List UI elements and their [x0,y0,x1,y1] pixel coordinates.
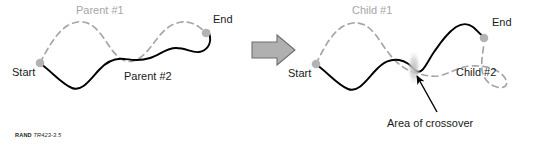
credit-org: RAND [15,132,32,138]
child-end-label: End [492,16,512,28]
child-start-dot [312,60,321,69]
crossover-figure: Start End Parent #1 Parent #2 Start End … [0,0,541,155]
figure-credit: RAND TR423-3.5 [15,132,61,138]
parent-end-label: End [213,13,233,25]
parent-2-label: Parent #2 [124,70,172,82]
child-1-label: Child #1 [352,4,392,16]
parent-start-label: Start [12,66,35,78]
child-start-label: Start [288,67,311,79]
child-2-label: Child #2 [456,66,496,78]
parent-end-dot [202,29,211,38]
crossover-annotation-label: Area of crossover [387,117,474,129]
parent-1-label: Parent #1 [76,4,124,16]
child-end-dot [480,34,489,43]
credit-number: TR423-3.5 [33,132,61,138]
parent-start-dot [36,59,45,68]
